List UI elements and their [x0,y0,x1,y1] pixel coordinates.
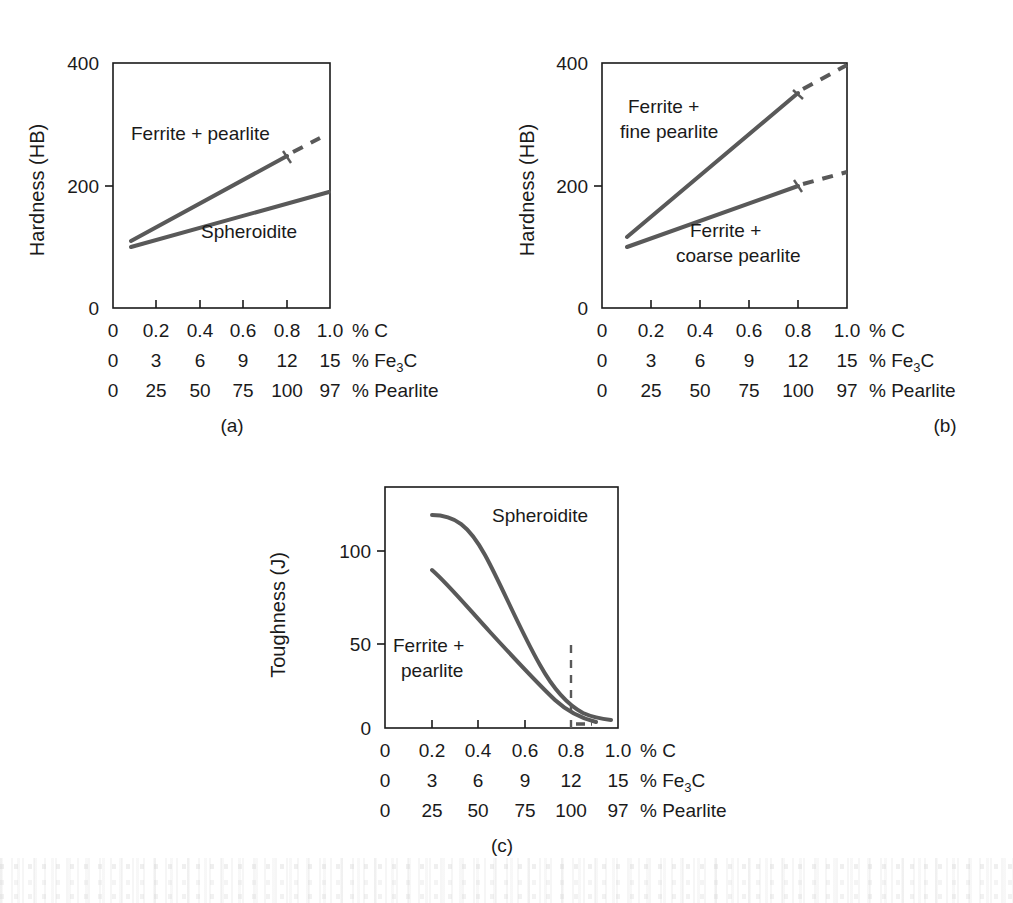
panel-b-row1-val4: 12 [787,350,808,371]
panel-a-row0-val5: 1.0 [317,320,343,341]
panel-a-row2-val4: 100 [271,380,303,401]
panel-a-plot-frame [113,63,330,308]
panel-a-y-axis-title: Hardness (HB) [26,124,48,256]
panel-c-row2-val2: 50 [467,800,488,821]
panel-b-row2-val4: 100 [782,380,814,401]
panel-c-chart: Toughness (J) 100 50 0 Spheroidite Ferri… [240,460,740,880]
panel-a-row1-val3: 9 [238,350,249,371]
panel-a-row1-unit-suffix: C [404,350,418,371]
panel-a-row2-val3: 75 [232,380,253,401]
panel-b-series-label-fine-pearlite-line1: Ferrite + [628,96,699,117]
panel-c-row0-val2: 0.4 [465,740,492,761]
panel-c-ytick-label-50: 50 [350,634,371,655]
panel-b-ytick-label-200: 200 [556,176,588,197]
figure-root: Hardness (HB) 400 200 0 Ferrite + pe [0,0,1013,903]
panel-c-row2-val3: 75 [514,800,535,821]
panel-b-row1-unit-prefix: % Fe [869,350,913,371]
panel-b-row0-unit: % C [869,320,905,341]
panel-b-row2-val1: 25 [640,380,661,401]
panel-c-row1-unit-prefix: % Fe [640,770,684,791]
panel-b-row2-val2: 50 [689,380,710,401]
panel-a: Hardness (HB) 400 200 0 Ferrite + pe [0,20,470,440]
panel-c-row2-val4: 100 [555,800,587,821]
panel-c-row0-val5: 1.0 [605,740,631,761]
panel-a-row1-val5: 15 [319,350,340,371]
panel-b-ytick-label-400: 400 [556,53,588,74]
panel-a-row1-unit-prefix: % Fe [352,350,396,371]
panel-c-series-label-ferrite-pearlite-line1: Ferrite + [393,635,464,656]
panel-c-row1-unit-suffix: C [692,770,706,791]
panel-c-row0-unit: % C [640,740,676,761]
panel-a-chart: Hardness (HB) 400 200 0 Ferrite + pe [0,20,470,440]
panel-c-row2-unit: % Pearlite [640,800,727,821]
panel-a-series-label-spheroidite: Spheroidite [201,221,297,242]
panel-a-row0-unit: % C [352,320,388,341]
panel-c-row0-val3: 0.6 [512,740,538,761]
panel-a-ytick-label-0: 0 [88,298,99,319]
panel-a-row1-unit-sub: 3 [396,360,403,375]
panel-a-row1-val4: 12 [276,350,297,371]
panel-a-row2-val2: 50 [189,380,210,401]
panel-c-row0-val0: 0 [380,740,391,761]
panel-b-row2-unit: % Pearlite [869,380,956,401]
panel-c-row0-val4: 0.8 [558,740,584,761]
panel-b-series-label-fine-pearlite-line2: fine pearlite [620,121,718,142]
panel-b-chart: Hardness (HB) 400 200 0 Ferrite + fine p… [500,20,1000,440]
panel-b-y-axis-title: Hardness (HB) [516,124,538,256]
panel-b-row1-val3: 9 [744,350,755,371]
panel-a-row0-val4: 0.8 [274,320,300,341]
panel-a-row0-val1: 0.2 [143,320,169,341]
panel-a-row2-unit: % Pearlite [352,380,439,401]
panel-a-row2-val1: 25 [145,380,166,401]
panel-c-y-axis-title: Toughness (J) [267,552,289,678]
panel-b: Hardness (HB) 400 200 0 Ferrite + fine p… [500,20,1000,440]
panel-b-row0-val4: 0.8 [785,320,811,341]
panel-a-row1-val0: 0 [108,350,119,371]
panel-b-row0-val1: 0.2 [638,320,664,341]
panel-b-row1-val1: 3 [646,350,657,371]
panel-c-row1-unit: % Fe3C [640,770,705,795]
panel-b-row1-unit-suffix: C [921,350,935,371]
panel-b-row1-unit-sub: 3 [913,360,920,375]
panel-a-row2-val5: 97 [319,380,340,401]
panel-c: Toughness (J) 100 50 0 Spheroidite Ferri… [240,460,740,880]
panel-a-ytick-label-400: 400 [67,53,99,74]
panel-b-series-label-coarse-pearlite-line2: coarse pearlite [676,245,801,266]
panel-c-row2-val5: 97 [607,800,628,821]
panel-b-caption: (b) [933,415,956,436]
panel-a-row1-val2: 6 [195,350,206,371]
panel-a-row0-val3: 0.6 [230,320,256,341]
panel-a-row2-val0: 0 [108,380,119,401]
panel-b-row2-val3: 75 [738,380,759,401]
panel-b-row1-val5: 15 [836,350,857,371]
panel-a-row1-unit: % Fe3C [352,350,417,375]
panel-b-row0-val5: 1.0 [834,320,860,341]
panel-c-caption: (c) [491,835,513,856]
panel-b-row0-val0: 0 [597,320,608,341]
panel-c-row2-val1: 25 [421,800,442,821]
panel-b-row0-val2: 0.4 [687,320,714,341]
panel-a-row0-val2: 0.4 [187,320,214,341]
panel-a-ytick-label-200: 200 [67,176,99,197]
panel-c-ytick-label-0: 0 [360,718,371,739]
panel-c-row1-val3: 9 [520,770,531,791]
panel-c-ytick-label-100: 100 [339,541,371,562]
panel-b-row2-val5: 97 [836,380,857,401]
panel-c-row2-val0: 0 [380,800,391,821]
panel-b-series-label-coarse-pearlite-line1: Ferrite + [690,220,761,241]
panel-a-series-label-ferrite-pearlite: Ferrite + pearlite [131,123,270,144]
panel-c-row0-val1: 0.2 [419,740,445,761]
panel-a-row0-val0: 0 [108,320,119,341]
panel-b-row1-val2: 6 [695,350,706,371]
panel-a-row1-val1: 3 [151,350,162,371]
panel-c-row1-val4: 12 [560,770,581,791]
panel-b-row1-val0: 0 [597,350,608,371]
panel-c-series-label-ferrite-pearlite-line2: pearlite [401,660,463,681]
panel-b-ytick-label-0: 0 [577,298,588,319]
panel-b-row2-val0: 0 [597,380,608,401]
panel-c-row1-val2: 6 [473,770,484,791]
panel-c-row1-val1: 3 [427,770,438,791]
panel-b-row0-val3: 0.6 [736,320,762,341]
panel-c-series-label-spheroidite: Spheroidite [492,505,588,526]
panel-c-row1-val5: 15 [607,770,628,791]
